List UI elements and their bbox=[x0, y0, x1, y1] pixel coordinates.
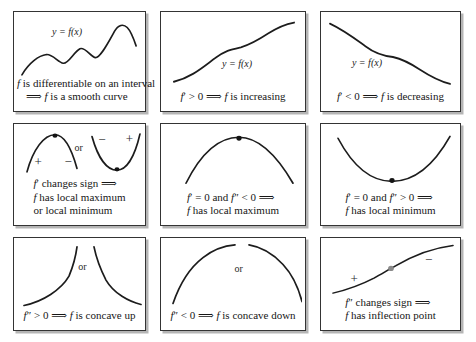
panel-caption: f′ > 0 ⟹ f is increasing bbox=[180, 90, 285, 104]
caption-line: ⟹ f is a smooth curve bbox=[17, 90, 155, 104]
caption-line: f has local maximum bbox=[34, 191, 126, 205]
panel-inflection-point: + − f″ changes sign ⟹ f has inflection p… bbox=[320, 237, 461, 331]
panel-caption: f″ < 0 ⟹ f is concave down bbox=[170, 309, 295, 323]
local-minimum-graphic bbox=[324, 127, 457, 191]
bowl-curve-path bbox=[338, 136, 450, 181]
panel-concave-down: or f″ < 0 ⟹ f is concave down bbox=[160, 237, 306, 331]
arch-curve-path bbox=[186, 137, 293, 183]
panel-smooth-curve: y = f(x) f is differentiable on an inter… bbox=[13, 11, 146, 112]
panel-decreasing: y = f(x) f′ < 0 ⟹ f is decreasing bbox=[320, 11, 461, 112]
panel-increasing: y = f(x) f′ > 0 ⟹ f is increasing bbox=[160, 11, 306, 112]
increasing-curve-path bbox=[174, 23, 294, 82]
panel-local-extremum: + − or − + f′ changes sign ⟹ f has local… bbox=[13, 123, 146, 226]
caption-line: f′ changes sign ⟹ bbox=[34, 177, 126, 191]
panel-local-maximum: f′ = 0 and f″ < 0 ⟹ f has local maximum bbox=[160, 123, 306, 226]
curve-equation-label: y = f(x) bbox=[352, 58, 382, 68]
decreasing-graphic: y = f(x) bbox=[324, 15, 457, 90]
caption-line: f has local maximum bbox=[187, 204, 279, 218]
concave-up-rising-path bbox=[24, 247, 77, 306]
minus-sign-label: − bbox=[65, 155, 72, 168]
panel-caption: f′ changes sign ⟹ f has local maximum or… bbox=[34, 177, 126, 218]
panel-local-minimum: f′ = 0 and f″ > 0 ⟹ f has local minimum bbox=[320, 123, 461, 226]
caption-line: f′ = 0 and f″ > 0 ⟹ bbox=[345, 191, 435, 205]
caption-line: f″ changes sign ⟹ bbox=[345, 296, 436, 310]
panel-caption: f′ < 0 ⟹ f is decreasing bbox=[337, 90, 444, 104]
local-min-point bbox=[389, 178, 394, 183]
concave-down-rising-path bbox=[173, 245, 235, 304]
minus-sign-label: − bbox=[98, 133, 105, 146]
decreasing-curve-path bbox=[330, 24, 450, 84]
decreasing-svg bbox=[324, 15, 457, 90]
or-label: or bbox=[78, 262, 86, 272]
local-maximum-svg bbox=[164, 127, 302, 191]
local-min-point bbox=[115, 167, 120, 171]
smooth-curve-svg bbox=[17, 15, 142, 77]
concave-up-falling-path bbox=[94, 247, 141, 305]
caption-line: f″ > 0 ⟹ f is concave up bbox=[24, 309, 136, 323]
plus-sign-label: + bbox=[35, 155, 42, 168]
caption-line: f″ < 0 ⟹ f is concave down bbox=[170, 309, 295, 323]
concave-up-graphic: or bbox=[17, 241, 142, 309]
derivative-curve-shape-grid: y = f(x) f is differentiable on an inter… bbox=[0, 0, 476, 342]
inflection-graphic: + − bbox=[324, 241, 457, 296]
local-extremum-graphic: + − or − + bbox=[17, 127, 142, 177]
caption-line: f has inflection point bbox=[345, 309, 436, 323]
caption-line: f is differentiable on an interval bbox=[17, 77, 155, 91]
local-maximum-graphic bbox=[164, 127, 302, 191]
panel-caption: f′ = 0 and f″ > 0 ⟹ f has local minimum bbox=[345, 191, 435, 218]
plus-sign-label: + bbox=[126, 132, 133, 145]
local-max-point bbox=[53, 133, 58, 137]
caption-line: f′ = 0 and f″ < 0 ⟹ bbox=[187, 191, 279, 205]
concave-down-graphic: or bbox=[164, 241, 302, 309]
panel-concave-up: or f″ > 0 ⟹ f is concave up bbox=[13, 237, 146, 331]
plus-sign-label: + bbox=[351, 272, 358, 285]
smooth-curve-graphic: y = f(x) bbox=[17, 15, 142, 77]
increasing-graphic: y = f(x) bbox=[164, 15, 302, 90]
inflection-point bbox=[388, 266, 394, 271]
caption-line: or local minimum bbox=[34, 204, 126, 218]
increasing-svg bbox=[164, 15, 302, 90]
panel-caption: f″ > 0 ⟹ f is concave up bbox=[24, 309, 136, 323]
local-max-point bbox=[236, 136, 241, 141]
caption-line: f′ > 0 ⟹ f is increasing bbox=[180, 90, 285, 104]
curve-equation-label: y = f(x) bbox=[222, 59, 252, 69]
or-label: or bbox=[75, 143, 83, 153]
curve-equation-label: y = f(x) bbox=[52, 27, 82, 37]
minus-sign-label: − bbox=[425, 253, 432, 266]
concave-down-falling-path bbox=[249, 245, 302, 302]
inflection-svg bbox=[324, 241, 457, 296]
caption-line: f′ < 0 ⟹ f is decreasing bbox=[337, 90, 444, 104]
local-minimum-svg bbox=[324, 127, 457, 191]
concave-up-svg bbox=[17, 241, 142, 309]
or-label: or bbox=[234, 264, 242, 274]
panel-caption: f′ = 0 and f″ < 0 ⟹ f has local maximum bbox=[187, 191, 279, 218]
panel-caption: f is differentiable on an interval ⟹ f i… bbox=[17, 77, 155, 104]
caption-line: f has local minimum bbox=[345, 204, 435, 218]
concave-down-svg bbox=[164, 241, 302, 309]
panel-caption: f″ changes sign ⟹ f has inflection point bbox=[345, 296, 436, 323]
